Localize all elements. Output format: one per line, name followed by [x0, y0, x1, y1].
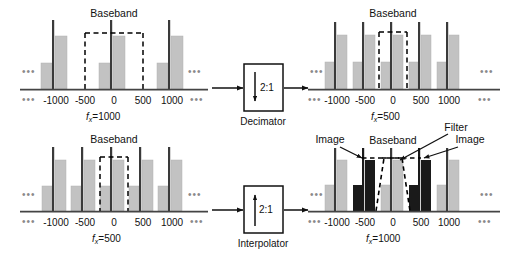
svg-text:fx=500: fx=500 — [371, 111, 400, 123]
tick-label: -500 — [355, 95, 375, 106]
baseband-label: Baseband — [90, 7, 137, 19]
figure-canvas: Baseband ••• ••• ••• ••• -1000 -500 0 50… — [0, 0, 518, 265]
replica-group — [99, 20, 125, 89]
axis-ellipsis-left: ••• — [308, 94, 322, 105]
baseband-label: Baseband — [90, 133, 137, 145]
right-ellipsis: ••• — [480, 189, 494, 200]
left-ellipsis: ••• — [22, 189, 36, 200]
replica-group — [157, 20, 183, 89]
tick-label: -1000 — [43, 217, 69, 228]
tick-label: -1000 — [43, 95, 69, 106]
decimator-caption: Decimator — [240, 116, 286, 127]
replica-group — [42, 147, 66, 211]
axis-ellipsis-right: ••• — [190, 216, 204, 227]
image-label-left: Image — [315, 133, 344, 145]
tick-label: -500 — [75, 95, 95, 106]
axis-ellipsis-right: ••• — [478, 216, 492, 227]
tick-label: 500 — [135, 95, 152, 106]
replica-group — [353, 22, 375, 89]
image-label-right: Image — [455, 133, 484, 145]
axis-ellipsis-left: ••• — [22, 94, 36, 105]
sample-rate-label: fx=500 — [371, 111, 400, 123]
tick-label: 0 — [111, 217, 117, 228]
decimator-ratio: 2:1 — [260, 82, 274, 93]
replica-group — [129, 147, 153, 211]
replica-group — [71, 147, 95, 211]
panel-top-right: Baseband ••• ••• ••• ••• -1000 -500 0 50… — [308, 7, 500, 123]
baseband-label: Baseband — [369, 7, 416, 19]
baseband-label: Baseband — [369, 134, 416, 146]
panel-bottom-right: Image Baseband Image Filter ••• ••• ••• … — [308, 121, 500, 245]
image-left-leader — [340, 147, 362, 158]
left-ellipsis: ••• — [310, 189, 324, 200]
tick-label: -1000 — [324, 217, 350, 228]
axis-ellipsis-left: ••• — [308, 216, 322, 227]
rate-value: 500 — [104, 233, 121, 244]
tick-label: 0 — [390, 217, 396, 228]
tick-label: 1000 — [438, 217, 461, 228]
svg-text:fx=1000: fx=1000 — [86, 111, 121, 123]
sample-rate-label: fx=1000 — [366, 233, 401, 245]
replica-group — [325, 148, 347, 211]
replica-group — [437, 148, 459, 211]
axis-ellipsis-left: ••• — [22, 216, 36, 227]
panel-top-left: Baseband ••• ••• ••• ••• -1000 -500 0 50… — [20, 7, 208, 123]
diagram-svg: Baseband ••• ••• ••• ••• -1000 -500 0 50… — [0, 0, 518, 265]
replica-group — [41, 20, 67, 89]
tick-label: -500 — [355, 217, 375, 228]
tick-label: 500 — [135, 217, 152, 228]
decimator-block[interactable]: 2:1 Decimator — [212, 64, 308, 127]
interpolator-block[interactable]: 2:1 Interpolator — [212, 186, 308, 249]
sample-rate-label: fx=1000 — [86, 111, 121, 123]
svg-text:fx=1000: fx=1000 — [366, 233, 401, 245]
rate-value: 1000 — [378, 233, 401, 244]
axis-ellipsis-right: ••• — [478, 94, 492, 105]
panel-bottom-left: Baseband ••• ••• ••• ••• -1000 -500 0 50… — [20, 133, 208, 245]
right-ellipsis: ••• — [188, 66, 202, 77]
replica-group — [158, 147, 182, 211]
right-ellipsis: ••• — [480, 66, 494, 77]
tick-label: 500 — [413, 217, 430, 228]
interpolator-caption: Interpolator — [238, 238, 289, 249]
replica-group — [325, 22, 347, 89]
tick-label: 1000 — [161, 95, 184, 106]
rate-value: 1000 — [98, 111, 121, 122]
tick-label: -1000 — [324, 95, 350, 106]
right-ellipsis: ••• — [188, 189, 202, 200]
tick-label: 500 — [413, 95, 430, 106]
sample-rate-label: fx=500 — [92, 233, 121, 245]
left-ellipsis: ••• — [22, 66, 36, 77]
tick-label: 1000 — [161, 217, 184, 228]
replica-group — [437, 22, 459, 89]
axis-ellipsis-right: ••• — [190, 94, 204, 105]
svg-text:fx=500: fx=500 — [92, 233, 121, 245]
filter-label: Filter — [444, 121, 468, 133]
tick-label: 0 — [390, 95, 396, 106]
tick-label: -500 — [75, 217, 95, 228]
image-right-leader — [424, 147, 458, 158]
interpolator-ratio: 2:1 — [259, 204, 273, 215]
rate-value: 500 — [383, 111, 400, 122]
left-ellipsis: ••• — [310, 66, 324, 77]
tick-label: 1000 — [438, 95, 461, 106]
tick-label: 0 — [111, 95, 117, 106]
replica-group — [409, 22, 431, 89]
